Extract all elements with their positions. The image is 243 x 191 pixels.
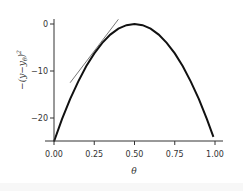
x-tick-label: 0.25 [85,150,103,159]
x-axis: 0.000.250.500.751.00 [45,141,224,159]
y-tick-label: 0 [43,20,48,29]
x-tick-label: 0.75 [166,150,184,159]
x-tick-label: 0.50 [126,150,144,159]
y-tick-label: −10 [31,67,48,76]
y-axis: 0−10−20 [31,19,54,141]
y-axis-label: −(y−yθ)2 [15,50,28,90]
x-axis-label: θ [131,166,137,176]
bottom-strip [0,183,243,191]
plot-area [54,19,213,141]
x-tick-label: 0.00 [45,150,63,159]
curve-line [54,24,213,142]
tangent-line [70,19,118,82]
svg-text:−(y−yθ)2: −(y−yθ)2 [15,50,28,90]
y-tick-label: −20 [31,114,48,123]
x-tick-label: 1.00 [206,150,224,159]
chart: 0−10−20 0.000.250.500.751.00 θ −(y−yθ)2 [0,0,243,191]
